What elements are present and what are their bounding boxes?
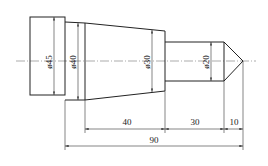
dim-d20-label: ø20 (201, 55, 211, 69)
dim-d45-label: ø45 (44, 55, 54, 69)
section-d20 (165, 42, 224, 81)
dim-30-label: 30 (191, 117, 201, 127)
dim-90-label: 90 (150, 135, 160, 145)
section-taper (85, 23, 165, 100)
shaft-drawing: ø45 ø40 ø30 ø20 40 30 10 90 (0, 0, 268, 166)
dim-d30-label: ø30 (142, 55, 152, 69)
cone-tip (224, 42, 243, 81)
dim-40-label: 40 (123, 117, 133, 127)
dim-10-label: 10 (230, 117, 240, 127)
dim-d40-label: ø40 (68, 55, 78, 69)
